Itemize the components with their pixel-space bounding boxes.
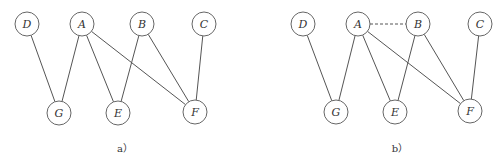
node-label: F: [465, 105, 474, 118]
node-label: E: [113, 107, 122, 120]
node-a: A: [346, 12, 370, 36]
nodes-b: DABCGEF: [291, 12, 492, 124]
caption-b: b）: [392, 143, 408, 154]
node-g: G: [324, 100, 348, 124]
caption-a: a）: [117, 143, 133, 154]
node-g: G: [47, 101, 71, 125]
node-label: F: [190, 106, 199, 119]
node-f: F: [458, 99, 482, 123]
node-label: A: [77, 18, 86, 31]
node-b: B: [406, 12, 430, 36]
edge-c-f: [196, 36, 203, 100]
node-b: B: [130, 12, 154, 36]
node-e: E: [106, 101, 130, 125]
node-a: A: [70, 12, 94, 36]
node-f: F: [183, 100, 207, 124]
node-c: C: [192, 12, 216, 36]
edge-d-g: [307, 35, 332, 101]
node-d: D: [15, 12, 39, 36]
node-label: D: [22, 18, 32, 31]
nodes-a: DABCGEF: [15, 12, 216, 125]
edge-c-f: [471, 36, 478, 99]
edge-a-g: [339, 36, 355, 101]
edges-b: [307, 24, 478, 104]
node-label: G: [332, 106, 341, 119]
node-label: B: [413, 18, 422, 31]
edges-a: [31, 31, 203, 104]
panel-a: DABCGEF a）: [15, 12, 216, 154]
edge-a-e: [363, 35, 391, 101]
node-e: E: [383, 100, 407, 124]
edge-b-e: [121, 36, 139, 102]
node-label: C: [476, 18, 485, 31]
node-label: E: [390, 106, 399, 119]
node-label: C: [200, 18, 209, 31]
node-c: C: [468, 12, 492, 36]
edge-d-g: [31, 35, 55, 101]
edge-a-f: [367, 31, 460, 103]
node-label: G: [55, 107, 64, 120]
node-label: B: [137, 18, 146, 31]
graph-diagram: DABCGEF a） DABCGEF b）: [0, 0, 502, 163]
edge-b-e: [398, 36, 415, 101]
node-label: A: [353, 18, 362, 31]
edge-a-g: [62, 36, 79, 102]
node-d: D: [291, 12, 315, 36]
node-label: D: [298, 18, 308, 31]
panel-b: DABCGEF b）: [291, 12, 492, 154]
edge-a-f: [91, 31, 185, 104]
